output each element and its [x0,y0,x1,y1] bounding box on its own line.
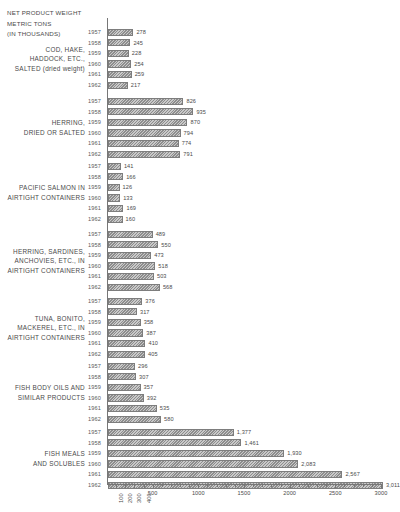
bar [108,194,120,201]
bar-year-label: 1957 [88,229,104,240]
chart-group: COD, HAKE,HADDOCK, ETC.,SALTED (dried we… [0,27,398,91]
bar-row: 1958307 [0,372,398,383]
bar-value-label: 870 [190,117,200,128]
bar-value-label: 473 [154,250,164,261]
bar-value-label: 357 [144,382,154,393]
bar-year-label: 1962 [88,349,104,360]
bar-value-label: 826 [186,96,196,107]
bar-year-label: 1959 [88,382,104,393]
axis-tick-minor [180,484,181,487]
bar [108,351,145,358]
bar-year-label: 1958 [88,240,104,251]
axis-tick-label: 200 [127,493,133,503]
bar-value-label: 259 [135,69,145,80]
bar-row: 1957278 [0,27,398,38]
bar-value-label: 791 [183,149,193,160]
axis-tick-major [153,484,154,488]
bar-row: 1961535 [0,403,398,414]
bar-year-label: 1957 [88,27,104,38]
bar [108,273,154,280]
bar-value-label: 503 [157,271,167,282]
bar-year-label: 1959 [88,48,104,59]
bar-row: 1959870 [0,117,398,128]
axis-tick-label: 100 [118,493,124,503]
bar [108,439,241,446]
bar [108,151,180,158]
axis-tick-label: 3000 [375,490,388,496]
bar-year-label: 1961 [88,138,104,149]
bar-year-label: 1959 [88,317,104,328]
axis-tick-minor [189,484,190,487]
bar-year-label: 1961 [88,469,104,480]
bar-value-label: 580 [164,414,174,425]
bar [108,108,193,115]
bar-value-label: 133 [123,193,133,204]
bar-row: 1962160 [0,214,398,225]
bar-row: 1958245 [0,38,398,49]
bar-value-label: 1,377 [237,427,252,438]
bar-year-label: 1960 [88,261,104,272]
axis-tick-label: 1000 [192,490,205,496]
chart-group: HERRING,DRIED OR SALTED19578261958935195… [0,96,398,160]
bar-row: 1962580 [0,414,398,425]
axis-tick-label: 300 [136,493,142,503]
bar-row: 19571,377 [0,427,398,438]
bar-value-label: 217 [131,80,141,91]
bar [108,460,298,467]
bar [108,60,131,67]
bar-row: 1960133 [0,193,398,204]
bar [108,216,123,223]
axis-tick-minor [354,484,355,487]
bar-row: 19581,461 [0,438,398,449]
bar-year-label: 1962 [88,282,104,293]
bar-row: 1957141 [0,161,398,172]
bar [108,284,160,291]
bar-row: 19612,567 [0,469,398,480]
bar-row: 1958166 [0,172,398,183]
bar-value-label: 568 [163,282,173,293]
axis-tick-minor [308,484,309,487]
bar [108,429,234,436]
axis-tick-minor [235,484,236,487]
bar [108,405,157,412]
bar-value-label: 518 [158,261,168,272]
bar-value-label: 307 [139,372,149,383]
bar [108,173,123,180]
axis-tick-minor [171,484,172,487]
bar-value-label: 376 [145,296,155,307]
bar-year-label: 1961 [88,69,104,80]
bar-year-label: 1958 [88,372,104,383]
bar-value-label: 387 [146,328,156,339]
bar [108,319,141,326]
bar-value-label: 296 [138,361,148,372]
bar-row: 1960794 [0,128,398,139]
bar-row: 1961259 [0,69,398,80]
axis-tick-minor [299,484,300,487]
bar-row: 1957826 [0,96,398,107]
bar [108,308,137,315]
bar-value-label: 2,083 [301,459,316,470]
bar-year-label: 1961 [88,403,104,414]
bar-row: 1959358 [0,317,398,328]
bar-row: 1958550 [0,240,398,251]
bar-year-label: 1960 [88,328,104,339]
axis-tick-minor [162,484,163,487]
axis-tick-minor [271,484,272,487]
bar-value-label: 1,461 [244,438,259,449]
bar [108,184,120,191]
bar [108,241,158,248]
bar-year-label: 1962 [88,214,104,225]
bar [108,416,161,423]
bar [108,205,123,212]
axis-tick-minor [326,484,327,487]
bar-year-label: 1960 [88,193,104,204]
bar-year-label: 1960 [88,459,104,470]
bar-row: 1959473 [0,250,398,261]
bar [108,252,151,259]
axis-tick-minor [281,484,282,487]
bar-row: 1959357 [0,382,398,393]
bar-row: 19591,930 [0,448,398,459]
bar-value-label: 317 [140,307,150,318]
axis-tick-label: 500 [148,490,158,496]
bar-value-label: 794 [184,128,194,139]
